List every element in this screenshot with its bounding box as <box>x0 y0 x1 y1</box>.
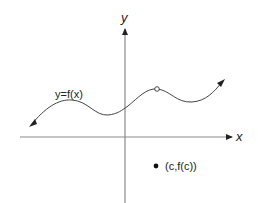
graph: y x y=f(x) (c,f(c)) <box>0 0 258 203</box>
point-label: (c,f(c)) <box>165 160 197 172</box>
y-axis-label: y <box>120 10 129 25</box>
open-circle-hole <box>155 87 160 92</box>
filled-point <box>154 164 159 169</box>
curve-label: y=f(x) <box>55 88 83 100</box>
x-axis-label: x <box>235 129 243 144</box>
curve-arrow-right-icon <box>217 79 225 87</box>
